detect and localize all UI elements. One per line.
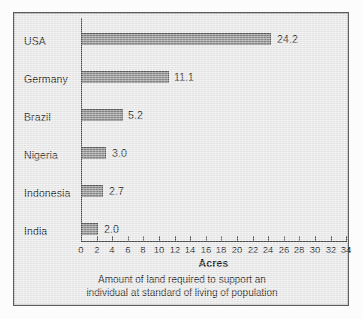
category-label-india: India (24, 226, 84, 237)
x-tick-8 (143, 236, 144, 242)
bar-india (82, 223, 98, 235)
x-tick-label-34: 34 (341, 244, 352, 255)
x-tick-label-4: 4 (109, 244, 114, 255)
x-tick-label-30: 30 (310, 244, 321, 255)
bar-value-brazil: 5.2 (128, 109, 143, 121)
chart-screenshot: USA Germany Brazil Nigeria Indonesia Ind… (0, 0, 362, 319)
x-tick-label-32: 32 (326, 244, 337, 255)
x-tick-14 (190, 236, 191, 242)
x-tick-label-12: 12 (170, 244, 181, 255)
category-label-nigeria: Nigeria (24, 150, 84, 161)
bar-value-indonesia: 2.7 (109, 185, 124, 197)
x-tick-label-28: 28 (294, 244, 305, 255)
x-tick-18 (221, 236, 222, 242)
x-tick-label-0: 0 (78, 244, 83, 255)
bar-brazil (82, 109, 123, 121)
figure-caption-line-2: individual at standard of living of popu… (26, 287, 338, 300)
x-tick-4 (112, 236, 113, 242)
bar-value-india: 2.0 (104, 223, 119, 235)
x-tick-30 (315, 236, 316, 242)
x-axis-line (81, 241, 346, 242)
bar-indonesia (82, 185, 103, 197)
x-tick-28 (299, 236, 300, 242)
x-tick-12 (175, 236, 176, 242)
x-tick-26 (284, 236, 285, 242)
category-label-usa: USA (24, 36, 84, 47)
x-tick-label-26: 26 (279, 244, 290, 255)
x-tick-6 (128, 236, 129, 242)
x-tick-label-8: 8 (140, 244, 145, 255)
x-tick-label-14: 14 (185, 244, 196, 255)
bar-value-germany: 11.1 (174, 71, 194, 83)
x-tick-24 (268, 236, 269, 242)
x-axis-title: Acres (81, 257, 346, 269)
plot-area: USA Germany Brazil Nigeria Indonesia Ind… (14, 13, 348, 305)
bar-nigeria (82, 147, 106, 159)
category-label-germany: Germany (24, 74, 84, 85)
y-axis-line (81, 18, 82, 242)
figure-frame: USA Germany Brazil Nigeria Indonesia Ind… (13, 12, 349, 306)
x-tick-label-20: 20 (232, 244, 243, 255)
x-tick-32 (331, 236, 332, 242)
x-tick-label-10: 10 (154, 244, 165, 255)
bar-usa (82, 33, 271, 45)
category-label-indonesia: Indonesia (24, 188, 84, 199)
x-tick-16 (206, 236, 207, 242)
x-tick-label-6: 6 (125, 244, 130, 255)
x-tick-0 (81, 236, 82, 242)
x-tick-label-18: 18 (216, 244, 227, 255)
x-tick-label-16: 16 (201, 244, 212, 255)
x-tick-10 (159, 236, 160, 242)
x-tick-label-24: 24 (263, 244, 274, 255)
x-tick-2 (97, 236, 98, 242)
x-tick-20 (237, 236, 238, 242)
figure-caption-line-1: Amount of land required to support an (26, 274, 338, 287)
x-tick-22 (253, 236, 254, 242)
x-tick-label-22: 22 (248, 244, 259, 255)
bar-germany (82, 71, 169, 83)
x-tick-34 (346, 236, 347, 242)
figure-caption: Amount of land required to support an in… (26, 274, 338, 299)
category-label-brazil: Brazil (24, 112, 84, 123)
bar-value-usa: 24.2 (277, 33, 298, 45)
bar-value-nigeria: 3.0 (112, 147, 127, 159)
x-tick-label-2: 2 (94, 244, 99, 255)
